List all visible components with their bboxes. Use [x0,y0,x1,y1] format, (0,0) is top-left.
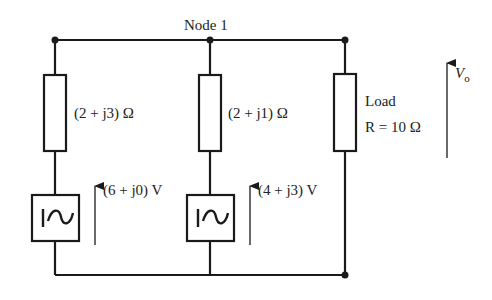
impedance-resistor-1 [44,75,66,151]
load-resistor [334,74,356,151]
ac-source-icon [187,195,234,241]
source-label-2: (4 + j3) V [258,182,318,199]
output-voltage-label: Vo [455,65,470,84]
output-voltage-subscript: o [464,72,470,84]
impedance-resistor-2 [199,75,221,151]
impedance-label-1: (2 + j3) Ω [74,105,134,122]
ac-source-icon [32,195,79,241]
load-branch [334,40,356,275]
circuit-diagram: Node 1 (2 + j3) Ω (2 + j1) Ω (6 + j0) V … [0,0,492,300]
impedance-label-2: (2 + j1) Ω [228,105,288,122]
branch-1 [32,40,95,275]
branch-2 [187,40,250,275]
load-value: R = 10 Ω [365,119,421,135]
node-1-label: Node 1 [184,17,228,33]
load-title: Load [365,93,396,109]
source-label-1: (6 + j0) V [103,182,163,199]
